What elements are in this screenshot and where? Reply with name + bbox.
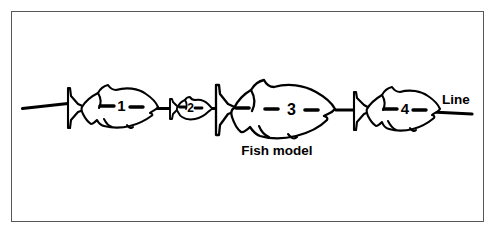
fish-model-label: Fish model (241, 143, 312, 158)
fish-model-2: 2 (170, 97, 212, 119)
fish-3-number: 3 (287, 101, 296, 118)
fish-model-4: 4 (354, 87, 440, 131)
figure-root: 1 2 3 (0, 0, 495, 240)
fish-1-number: 1 (117, 97, 125, 114)
caption-partial (11, 233, 231, 240)
fish-model-1: 1 (68, 85, 158, 128)
fish-model-3: 3 (216, 80, 335, 138)
fish-4-number: 4 (401, 100, 410, 117)
line-segment-leader (23, 104, 69, 109)
fish-rig-diagram: 1 2 3 (0, 0, 495, 240)
fish-2-number: 2 (187, 101, 194, 115)
line-label: Line (442, 92, 470, 107)
